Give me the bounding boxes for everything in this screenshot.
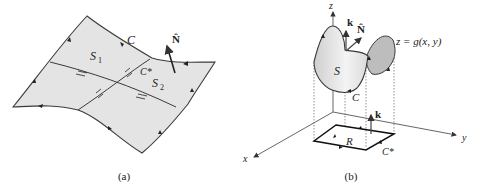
label-Cstar: C* (140, 66, 152, 77)
caption-b: (b) (345, 170, 358, 183)
label-Cstar-b: C* (382, 146, 394, 157)
diagram-canvas: C N̂ S 1 S 2 C* (a) z x y (0, 0, 478, 189)
label-surface-equation: z = g(x, y) (395, 35, 442, 48)
label-S1: S (90, 49, 96, 63)
label-axis-y: y (461, 132, 467, 143)
normal-vector-b (346, 38, 361, 51)
label-surface-S: S (334, 64, 340, 78)
label-normal-N: N̂ (172, 33, 180, 45)
label-axis-z: z (328, 0, 333, 11)
label-normal-N-b: N̂ (357, 23, 365, 35)
figure-b: z x y k N̂ z = g(x, y) S C (242, 0, 467, 183)
label-region-R: R (345, 135, 353, 147)
axis-x (254, 112, 333, 157)
surface-S-back (366, 36, 395, 74)
label-curve-C-b: C (352, 91, 360, 103)
label-curve-C: C (127, 33, 136, 47)
caption-a: (a) (118, 170, 131, 183)
label-k-bottom: k (375, 108, 382, 120)
label-S2: S (152, 76, 158, 90)
label-axis-x: x (242, 153, 248, 164)
figure-a: C N̂ S 1 S 2 C* (a) (13, 16, 215, 183)
axis-y (333, 112, 456, 135)
label-S1-sub: 1 (98, 56, 102, 65)
label-S2-sub: 2 (160, 83, 164, 92)
label-k-top: k (347, 16, 354, 28)
